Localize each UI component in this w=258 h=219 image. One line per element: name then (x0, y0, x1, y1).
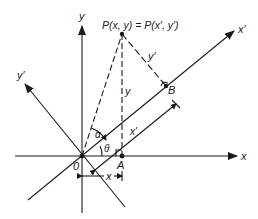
point-origin (80, 154, 85, 159)
label-x-axis: x (240, 150, 247, 162)
y-prime-axis (25, 84, 125, 207)
label-origin: 0 (73, 160, 80, 172)
label-segment-x: x (105, 170, 112, 182)
label-point-P: P(x, y) = P(x′, y′) (102, 19, 179, 31)
point-A (120, 154, 125, 159)
label-angle-alpha: α (95, 129, 101, 140)
angle-theta-arc (100, 146, 102, 156)
label-B: B (168, 84, 175, 96)
segment-PB (122, 34, 166, 86)
point-P (120, 32, 124, 36)
segment-OP (82, 34, 122, 156)
dimension-x-prime (95, 104, 176, 170)
label-segment-y: y (124, 85, 132, 97)
label-segment-y-prime: y′ (147, 50, 157, 62)
label-angle-theta: θ (104, 143, 110, 154)
label-segment-x-prime: x′ (129, 126, 138, 137)
label-x-prime-axis: x′ (237, 23, 247, 35)
x-prime-axis (28, 31, 234, 200)
rotation-diagram: y x x′ y′ P(x, y) = P(x′, y′) 0 A B y y′… (0, 0, 258, 219)
label-y-prime-axis: y′ (16, 69, 26, 81)
label-y-axis: y (78, 10, 86, 22)
label-A: A (116, 159, 124, 171)
